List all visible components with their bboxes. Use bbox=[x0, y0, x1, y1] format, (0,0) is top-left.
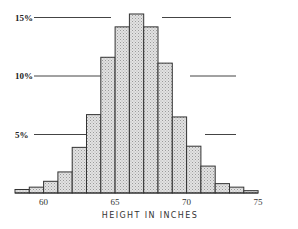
histogram-bar bbox=[230, 187, 244, 193]
histogram-bar bbox=[15, 189, 29, 193]
histogram-bar bbox=[215, 184, 229, 193]
x-axis-ticks: 60657075 bbox=[39, 197, 263, 207]
histogram-bar bbox=[58, 172, 72, 193]
histogram-bar bbox=[115, 27, 129, 193]
histogram-bar bbox=[144, 27, 158, 193]
histogram-bar bbox=[101, 57, 115, 193]
histogram-bar bbox=[129, 14, 143, 193]
histogram-bar bbox=[72, 147, 86, 193]
x-axis-title: HEIGHT IN INCHES bbox=[102, 211, 198, 220]
histogram-bar bbox=[44, 181, 58, 193]
histogram-bar bbox=[187, 146, 201, 193]
y-axis-label: 10% bbox=[15, 71, 33, 81]
x-tick-label: 75 bbox=[254, 197, 264, 207]
histogram-bar bbox=[29, 187, 43, 193]
y-axis-labels: 5%10%15% bbox=[15, 13, 33, 140]
histogram-chart: 5%10%15% 60657075 HEIGHT IN INCHES bbox=[0, 0, 298, 229]
histogram-bar bbox=[87, 115, 101, 193]
histogram-bar bbox=[158, 63, 172, 193]
histogram-bar bbox=[201, 166, 215, 193]
y-axis-label: 15% bbox=[15, 13, 33, 23]
x-tick-label: 60 bbox=[39, 197, 49, 207]
histogram-bars bbox=[15, 14, 258, 193]
y-axis-label: 5% bbox=[15, 130, 29, 140]
x-tick-label: 65 bbox=[111, 197, 121, 207]
histogram-bar bbox=[172, 117, 186, 193]
x-tick-label: 70 bbox=[182, 197, 192, 207]
